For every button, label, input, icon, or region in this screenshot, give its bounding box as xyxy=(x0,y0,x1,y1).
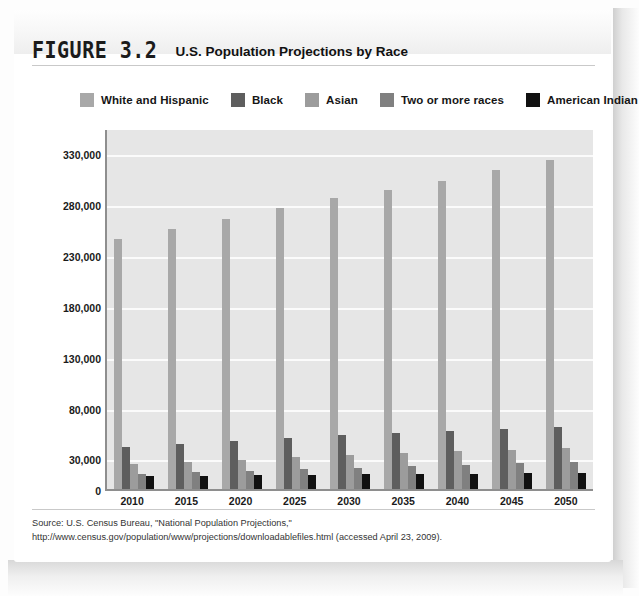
bar xyxy=(562,448,570,489)
bar xyxy=(346,455,354,489)
bar xyxy=(338,435,346,489)
legend-label: Asian xyxy=(326,94,358,106)
plot-area xyxy=(105,130,593,491)
y-axis-tick-label: 130,000 xyxy=(63,353,101,365)
bar-group xyxy=(330,130,370,489)
bar xyxy=(408,466,416,489)
bar xyxy=(470,474,478,489)
legend-swatch-icon xyxy=(526,93,540,107)
x-axis-tick-label: 2045 xyxy=(500,495,523,507)
x-axis: 201020152020202520302035204020452050 xyxy=(105,495,593,507)
y-axis: 330,000280,000230,000180,000130,00080,00… xyxy=(45,125,101,497)
bar xyxy=(114,239,122,489)
bar xyxy=(354,468,362,489)
bar xyxy=(138,474,146,489)
y-axis-tick-label: 30,000 xyxy=(69,454,101,466)
bar xyxy=(330,198,338,489)
figure-header: FIGURE 3.2 U.S. Population Projections b… xyxy=(32,32,597,62)
bar xyxy=(292,457,300,489)
chart-legend: White and HispanicBlackAsianTwo or more … xyxy=(80,90,600,110)
bar xyxy=(192,472,200,489)
page-edge-shadow-bottom xyxy=(8,560,623,596)
bar-group xyxy=(114,130,154,489)
bar xyxy=(362,474,370,489)
legend-swatch-icon xyxy=(80,93,94,107)
bar xyxy=(176,444,184,489)
bar xyxy=(462,465,470,489)
header-divider xyxy=(32,65,595,66)
bar xyxy=(578,473,586,489)
x-axis-tick-label: 2040 xyxy=(446,495,469,507)
bar xyxy=(438,181,446,489)
bar xyxy=(392,433,400,489)
figure-title: U.S. Population Projections by Race xyxy=(175,42,408,62)
source-divider xyxy=(32,509,595,510)
x-axis-tick-label: 2015 xyxy=(175,495,198,507)
bar xyxy=(516,463,524,489)
legend-label: White and Hispanic xyxy=(101,94,209,106)
bar xyxy=(570,462,578,489)
legend-item: American Indian xyxy=(526,93,638,107)
bar xyxy=(238,460,246,489)
chart-plot-wrapper: 330,000280,000230,000180,000130,00080,00… xyxy=(45,125,597,497)
legend-label: Black xyxy=(252,94,283,106)
x-axis-tick-label: 2035 xyxy=(392,495,415,507)
x-axis-tick-label: 2025 xyxy=(283,495,306,507)
bar-group xyxy=(276,130,316,489)
legend-swatch-icon xyxy=(305,93,319,107)
bar xyxy=(308,475,316,489)
bar xyxy=(284,438,292,489)
y-axis-tick-label: 230,000 xyxy=(63,251,101,263)
x-axis-tick-label: 2010 xyxy=(120,495,143,507)
bar-group xyxy=(168,130,208,489)
legend-item: Asian xyxy=(305,93,358,107)
bars-layer xyxy=(107,130,593,489)
legend-swatch-icon xyxy=(231,93,245,107)
legend-item: Two or more races xyxy=(380,93,504,107)
figure-card: FIGURE 3.2 U.S. Population Projections b… xyxy=(14,10,611,562)
y-axis-tick-label: 330,000 xyxy=(63,149,101,161)
y-axis-tick-label: 0 xyxy=(95,485,101,497)
bar xyxy=(384,190,392,489)
legend-item: Black xyxy=(231,93,283,107)
bar-group xyxy=(546,130,586,489)
bar-group xyxy=(492,130,532,489)
bar xyxy=(300,469,308,489)
bar xyxy=(222,219,230,489)
x-axis-tick-label: 2030 xyxy=(337,495,360,507)
bar xyxy=(168,229,176,489)
bar xyxy=(500,429,508,489)
bar xyxy=(122,447,130,489)
bar xyxy=(276,208,284,489)
bar xyxy=(146,476,154,489)
y-axis-tick-label: 80,000 xyxy=(69,404,101,416)
legend-item: White and Hispanic xyxy=(80,93,209,107)
bar xyxy=(246,471,254,489)
bar xyxy=(546,160,554,489)
bar xyxy=(524,473,532,489)
legend-label: American Indian xyxy=(547,94,638,106)
figure-number: FIGURE 3.2 xyxy=(32,38,157,62)
bar xyxy=(400,453,408,489)
bar xyxy=(554,427,562,489)
bar xyxy=(446,431,454,489)
bar-group xyxy=(438,130,478,489)
bar xyxy=(230,441,238,489)
legend-swatch-icon xyxy=(380,93,394,107)
y-axis-tick-label: 180,000 xyxy=(63,302,101,314)
bar-group xyxy=(384,130,424,489)
bar xyxy=(416,474,424,489)
source-note: Source: U.S. Census Bureau, "National Po… xyxy=(32,516,592,544)
bar xyxy=(508,450,516,489)
x-axis-tick-label: 2050 xyxy=(554,495,577,507)
bar xyxy=(492,170,500,489)
legend-label: Two or more races xyxy=(401,94,504,106)
bar-group xyxy=(222,130,262,489)
bar xyxy=(254,475,262,489)
bar xyxy=(454,451,462,489)
bar xyxy=(200,476,208,489)
bar xyxy=(130,464,138,489)
y-axis-tick-label: 280,000 xyxy=(63,200,101,212)
x-axis-tick-label: 2020 xyxy=(229,495,252,507)
bar xyxy=(184,462,192,489)
